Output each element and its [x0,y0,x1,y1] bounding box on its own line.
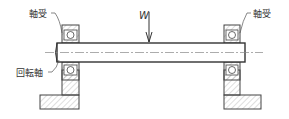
right-base [224,95,261,109]
left-upper-ball [67,32,74,39]
bearing-shaft-diagram: W 軸受 回転軸 軸受 [0,0,289,119]
left-support [40,25,79,109]
right-upper-ball [229,32,236,39]
left-base [40,95,79,109]
label-rotating-shaft: 回転軸 [16,67,43,78]
leader-bearing-right [240,13,251,33]
label-bearing-right: 軸受 [253,8,271,19]
label-bearing-left: 軸受 [29,8,47,19]
left-lower-ball [67,67,74,74]
load-label: W [139,10,150,21]
right-support [224,25,261,109]
right-lower-ball [229,67,236,74]
leader-bearing-left [51,13,62,33]
